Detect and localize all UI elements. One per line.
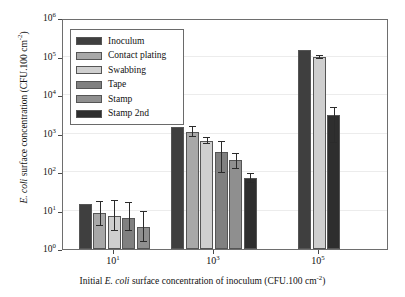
y-axis-tick [58, 250, 62, 251]
y-tick-base: 10 [43, 167, 53, 177]
error-bar [334, 108, 335, 143]
error-bar-cap-upper [232, 153, 239, 154]
error-bar-cap-upper [218, 141, 225, 142]
error-bar [221, 142, 222, 173]
error-bar-cap-lower [232, 168, 239, 169]
x-axis-tick-label: 105 [298, 256, 338, 266]
legend-item-label: Tape [108, 80, 126, 90]
bar [200, 141, 213, 249]
error-bar [100, 202, 101, 226]
x-axis-tick [113, 250, 114, 254]
y-axis-tick [58, 135, 62, 136]
x-tick-base: 10 [206, 255, 216, 266]
legend-swatch [76, 37, 102, 45]
x-axis-tick [213, 250, 214, 254]
legend-item-label: Swabbing [108, 66, 146, 76]
x-tick-exponent: 5 [321, 254, 324, 261]
error-bar-cap-lower [218, 172, 225, 173]
x-axis-title-rest: surface concentration of inoculum (CFU.1… [130, 276, 317, 286]
x-axis-title-prefix: Initial [80, 276, 105, 286]
y-axis-title: E. coli surface concentration (CFU.100 c… [19, 9, 30, 225]
bar [79, 204, 92, 249]
y-tick-exponent: 5 [53, 49, 56, 56]
legend-swatch [76, 95, 102, 103]
bar [171, 127, 184, 249]
y-axis-tick [58, 19, 62, 20]
chart-legend: InoculumContact platingSwabbingTapeStamp… [70, 29, 184, 125]
y-tick-base: 10 [43, 244, 53, 254]
legend-item: Stamp [76, 92, 178, 107]
error-bar-cap-upper [125, 202, 132, 203]
x-axis-title-italic: E. coli [105, 276, 130, 286]
legend-item-label: Contact plating [108, 51, 166, 61]
error-bar-cap-upper [316, 55, 323, 56]
bar [298, 50, 311, 249]
error-bar [143, 212, 144, 242]
x-tick-base: 10 [311, 255, 321, 266]
legend-item-label: Inoculum [108, 37, 144, 47]
error-bar-cap-lower [203, 143, 210, 144]
error-bar-cap-lower [330, 142, 337, 143]
error-bar [114, 201, 115, 231]
y-tick-exponent: 2 [53, 165, 56, 172]
y-axis-title-exponent: -2 [16, 35, 23, 41]
x-axis-tick-label: 101 [93, 256, 133, 266]
y-axis-tick-label: 100 [43, 245, 56, 255]
legend-item: Stamp 2nd [76, 107, 178, 122]
error-bar-cap-lower [96, 225, 103, 226]
error-bar-cap-lower [140, 241, 147, 242]
legend-item-label: Stamp [108, 95, 132, 105]
bar [229, 160, 242, 249]
y-axis-tick [58, 173, 62, 174]
error-bar-cap-lower [111, 230, 118, 231]
y-axis-tick-label: 106 [43, 14, 56, 24]
error-bar-cap-upper [140, 211, 147, 212]
legend-swatch [76, 52, 102, 60]
y-tick-base: 10 [43, 90, 53, 100]
y-axis-tick [58, 58, 62, 59]
legend-swatch [76, 110, 102, 118]
legend-item: Tape [76, 78, 178, 93]
error-bar-cap-lower [247, 182, 254, 183]
legend-swatch [76, 66, 102, 74]
x-axis-tick [318, 250, 319, 254]
x-axis-title-suffix: ) [322, 276, 325, 286]
bar [186, 132, 199, 249]
y-axis-tick [58, 96, 62, 97]
error-bar-cap-upper [203, 137, 210, 138]
y-tick-base: 10 [43, 129, 53, 139]
bar-chart: 100101102103104105106 E. coli surface co… [0, 0, 405, 297]
x-tick-exponent: 3 [216, 254, 219, 261]
legend-item: Swabbing [76, 63, 178, 78]
legend-item: Contact plating [76, 49, 178, 64]
x-tick-base: 10 [106, 255, 116, 266]
error-bar-cap-upper [247, 173, 254, 174]
x-axis-title: Initial E. coli surface concentration of… [0, 276, 405, 287]
y-tick-exponent: 0 [53, 242, 56, 249]
error-bar-cap-lower [125, 230, 132, 231]
y-axis-tick [58, 212, 62, 213]
y-axis-tick-label: 105 [43, 53, 56, 63]
y-axis-tick-label: 103 [43, 130, 56, 140]
legend-item: Inoculum [76, 34, 178, 49]
error-bar-cap-upper [96, 201, 103, 202]
error-bar-cap-lower [189, 136, 196, 137]
bar [244, 178, 257, 249]
y-tick-base: 10 [43, 13, 53, 23]
y-axis-title-rest: surface concentration (CFU.100 cm [19, 40, 29, 179]
error-bar-cap-lower [316, 58, 323, 59]
y-axis-tick-label: 101 [43, 207, 56, 217]
y-tick-exponent: 3 [53, 126, 56, 133]
error-bar [236, 154, 237, 169]
error-bar-cap-upper [189, 126, 196, 127]
x-axis-tick-label: 103 [193, 256, 233, 266]
legend-swatch [76, 81, 102, 89]
y-axis-tick-label: 104 [43, 91, 56, 101]
y-tick-exponent: 4 [53, 88, 56, 95]
y-tick-base: 10 [43, 52, 53, 62]
y-axis-tick-label: 102 [43, 168, 56, 178]
y-axis-title-suffix: ) [19, 31, 29, 34]
error-bar-cap-upper [330, 107, 337, 108]
y-tick-exponent: 6 [53, 11, 56, 18]
bar [313, 57, 326, 249]
